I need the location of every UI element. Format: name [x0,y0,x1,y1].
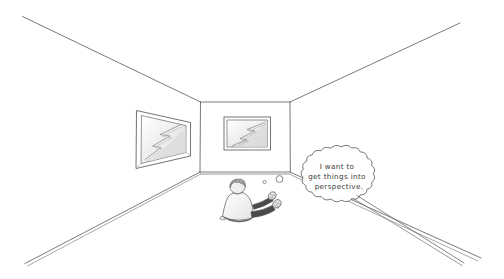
ceiling-right-edge [290,23,460,102]
thought-trail-dot-small [263,180,266,183]
seated-person [220,179,282,222]
person-shoe-far [268,192,276,200]
thought-bubble: I want to get things into perspective. [301,145,464,265]
thought-trail [263,176,283,184]
thought-line-3: perspective. [315,182,364,191]
person-torso [223,192,254,220]
back-wall-left-corner [200,102,201,172]
illustration-canvas: I want to get things into perspective. [0,0,504,279]
floor-left-edge-outer [25,172,200,263]
thought-line-2: get things into [308,172,366,181]
back-wall-picture [224,117,271,150]
cartoon-illustration: I want to get things into perspective. [0,0,504,279]
left-wall-picture [136,111,191,169]
person-shoe-near [273,200,282,209]
thought-bubble-tail-lower [354,199,463,266]
thought-trail-dot-large [276,176,283,183]
floor-left-edge-inner [28,174,201,266]
thought-bubble-tail-upper [357,196,464,264]
thought-line-1: I want to [320,162,355,171]
ceiling-left-edge [23,17,201,103]
